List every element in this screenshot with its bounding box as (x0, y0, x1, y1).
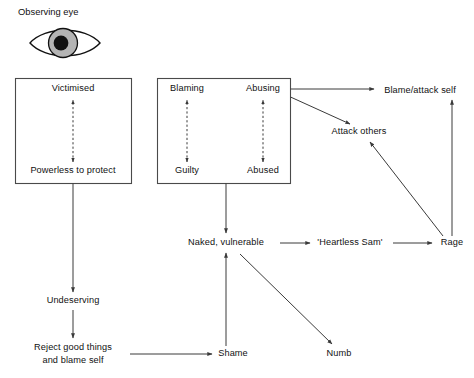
node-blame-attack-self: Blame/attack self (384, 85, 456, 95)
node-naked-vulnerable: Naked, vulnerable (188, 237, 264, 247)
observing-eye-heading: Observing eye (18, 6, 78, 17)
node-blaming: Blaming (170, 83, 204, 93)
node-abusing: Abusing (246, 83, 280, 93)
node-reject-good-things-line2: and blame self (42, 355, 104, 365)
diagram-canvas-container: Observing eye Victimised Powerless to pr… (0, 0, 474, 378)
node-powerless-to-protect: Powerless to protect (30, 165, 116, 175)
connector-abuser-to-attack-others (291, 97, 351, 124)
node-attack-others: Attack others (332, 126, 387, 136)
node-shame: Shame (218, 348, 248, 358)
eye-icon (30, 29, 100, 58)
node-abused: Abused (247, 165, 279, 175)
node-undeserving: Undeserving (47, 295, 100, 305)
node-numb: Numb (327, 348, 352, 358)
node-heartless-sam: 'Heartless Sam' (317, 237, 382, 247)
node-guilty: Guilty (175, 165, 199, 175)
node-victimised: Victimised (52, 83, 95, 93)
connector-rage-to-attack-others (370, 142, 443, 236)
node-rage: Rage (441, 237, 463, 247)
connector-naked-to-numb (240, 254, 332, 344)
node-reject-good-things-line1: Reject good things (34, 342, 112, 352)
diagram-svg: Observing eye Victimised Powerless to pr… (0, 0, 474, 378)
